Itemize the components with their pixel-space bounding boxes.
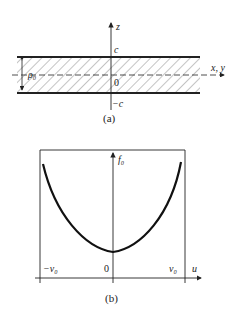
distribution-curve [43,162,181,252]
neg-v0-label: −v₀ [43,263,58,274]
origin-label-a: 0 [114,77,119,88]
figure-canvas: z x, y c 0 −c ρ₀ (a) f₀ u −v₀ 0 v₀ (b) [0,0,235,310]
f0-axis-label: f₀ [118,154,125,165]
z-axis-label: z [115,21,120,32]
figure-a: z x, y c 0 −c ρ₀ (a) [12,21,225,125]
caption-a: (a) [103,112,116,125]
caption-b: (b) [105,292,118,305]
figure-b: f₀ u −v₀ 0 v₀ (b) [35,150,201,305]
rho0-label: ρ₀ [27,69,37,80]
top-c-label: c [114,44,119,55]
origin-label-b: 0 [104,263,109,274]
v0-label: v₀ [169,263,177,274]
xy-axis-label: x, y [210,62,225,73]
bottom-c-label: −c [112,98,124,109]
u-axis-label: u [192,263,197,274]
